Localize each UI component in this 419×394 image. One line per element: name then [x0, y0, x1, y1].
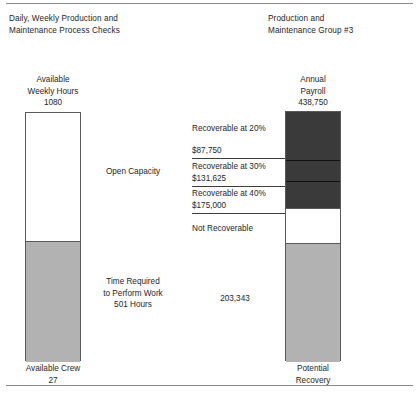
label-recoverable-20-value: $87,750: [192, 145, 222, 157]
figure-container: Daily, Weekly Production and Maintenance…: [0, 0, 419, 394]
leader-line-recoverable-40: [192, 213, 285, 214]
right-bar-bottom-caption: Potential Recovery: [274, 363, 352, 386]
right-bar-segment-potential-recovery: [286, 243, 340, 362]
label-recoverable-40-name: Recoverable at 40%: [192, 188, 266, 200]
label-recoverable-20-name: Recoverable at 20%: [192, 123, 266, 135]
left-bar-bottom-caption: Available Crew 27: [6, 363, 100, 386]
label-not-recoverable: Not Recoverable: [192, 223, 253, 235]
label-time-required: Time Required to Perform Work 501 Hours: [84, 276, 182, 311]
label-open-capacity: Open Capacity: [84, 166, 182, 178]
left-bar: [25, 112, 81, 361]
label-recoverable-40-value: $175,000: [192, 200, 226, 212]
right-bar: [285, 111, 341, 361]
header-title-left: Daily, Weekly Production and Maintenance…: [9, 13, 120, 36]
left-bar-segment-time-required: [26, 241, 80, 362]
left-bar-segment-open-capacity: [26, 113, 80, 241]
right-bar-segment-not-recoverable: [286, 208, 340, 243]
label-recoverable-30-name: Recoverable at 30%: [192, 161, 266, 173]
top-divider-rule: [6, 3, 413, 4]
header-title-right: Production and Maintenance Group #3: [268, 13, 353, 36]
right-bar-top-caption: Annual Payroll 438,750: [274, 74, 352, 109]
right-bar-segment-recoverable-20: [286, 112, 340, 160]
leader-line-recoverable-20: [192, 158, 285, 159]
left-bar-top-caption: Available Weekly Hours 1080: [14, 74, 92, 109]
label-recoverable-30-value: $131,625: [192, 173, 226, 185]
leader-line-recoverable-30: [192, 186, 285, 187]
right-bar-segment-recoverable-30: [286, 160, 340, 181]
label-potential-recovery-value: 203,343: [196, 293, 274, 305]
right-bar-segment-recoverable-40: [286, 181, 340, 208]
